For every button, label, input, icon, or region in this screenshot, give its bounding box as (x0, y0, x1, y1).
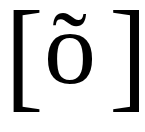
phonetic-transcription: [ õ ] (0, 0, 145, 132)
phonetic-symbol: õ (44, 0, 96, 100)
open-bracket: [ (5, 0, 44, 116)
close-bracket: ] (109, 0, 145, 116)
